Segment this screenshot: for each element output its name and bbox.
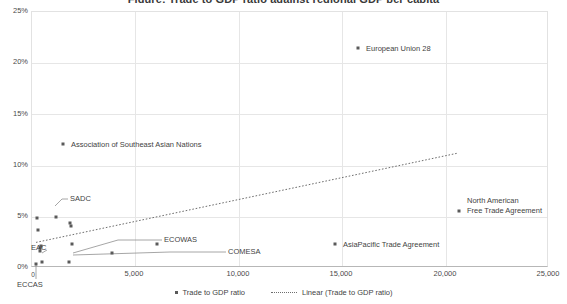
- gridline-x-5000: [135, 12, 136, 266]
- data-label-sadc-text: SADC: [70, 194, 91, 203]
- gridline-x-10000: [239, 12, 240, 266]
- data-label-apta: AsiaPacific Trade Agreement: [343, 240, 439, 249]
- data-point-apta: [334, 243, 337, 246]
- data-label-eac: EAC: [31, 243, 46, 252]
- data-point-ecowas: [71, 243, 74, 246]
- data-point-eccas: [35, 263, 38, 266]
- data-label-asean-text: Association of Southeast Asian Nations: [71, 140, 202, 149]
- data-point: [68, 261, 71, 264]
- x-axis-label-15000: 15,000: [330, 270, 353, 278]
- data-label-asean: Association of Southeast Asian Nations: [71, 140, 202, 149]
- data-label-sadc: SADC: [70, 194, 91, 203]
- x-axis-label-10000: 10,000: [227, 270, 250, 278]
- chart-root: Figure: Trade to GDP ratio against regio…: [0, 0, 567, 304]
- gridline-y-20: [32, 63, 547, 64]
- dotted-line-icon: [271, 292, 297, 293]
- data-point-nafta: [458, 210, 461, 213]
- chart-title: Figure: Trade to GDP ratio against regio…: [0, 0, 567, 3]
- y-axis-label-25: 25%: [0, 7, 28, 15]
- data-point-comesa: [111, 252, 114, 255]
- gridline-y-5: [32, 217, 547, 218]
- data-label-ecowas-text: ECOWAS: [164, 235, 197, 244]
- data-point-asean: [62, 143, 65, 146]
- chart-legend: Trade to GDP ratio Linear (Trade to GDP …: [0, 288, 567, 297]
- gridline-x-20000: [446, 12, 447, 266]
- legend-item-trendline[interactable]: Linear (Trade to GDP ratio): [271, 288, 392, 297]
- data-point: [70, 225, 73, 228]
- gridline-y-10: [32, 166, 547, 167]
- legend-item-series[interactable]: Trade to GDP ratio: [175, 288, 246, 297]
- data-label-comesa: COMESA: [228, 247, 261, 256]
- y-axis-label-0: 0%: [0, 263, 28, 271]
- data-point: [156, 243, 159, 246]
- data-label-eac-text: EAC: [31, 243, 46, 252]
- data-point-sadc: [55, 216, 58, 219]
- data-label-nafta-line2: Free Trade Agreement: [467, 206, 542, 215]
- y-axis-label-5: 5%: [0, 212, 28, 220]
- data-point: [37, 229, 40, 232]
- x-axis-label-5000: 5,000: [125, 270, 144, 278]
- gridline-y-15: [32, 114, 547, 115]
- legend-item-series-label: Trade to GDP ratio: [183, 288, 246, 297]
- data-label-ecowas: ECOWAS: [164, 235, 197, 244]
- data-point: [36, 217, 39, 220]
- data-label-nafta: North American Free Trade Agreement: [467, 196, 553, 215]
- data-label-nafta-line1: North American: [467, 196, 519, 205]
- data-point-eu28: [357, 47, 360, 50]
- square-marker-icon: [175, 291, 178, 294]
- data-label-eu28-text: European Union 28: [366, 44, 431, 53]
- y-axis-label-10: 10%: [0, 161, 28, 169]
- legend-item-trendline-label: Linear (Trade to GDP ratio): [302, 288, 392, 297]
- x-axis-label-20000: 20,000: [434, 270, 457, 278]
- x-axis-label-0: 0: [31, 271, 35, 279]
- data-label-eu28: European Union 28: [366, 44, 431, 53]
- gridline-x-15000: [342, 12, 343, 266]
- y-axis-label-20: 20%: [0, 58, 28, 66]
- data-label-apta-text: AsiaPacific Trade Agreement: [343, 240, 439, 249]
- plot-area: [31, 11, 548, 267]
- y-axis-label-15: 15%: [0, 110, 28, 118]
- data-point: [41, 261, 44, 264]
- data-label-comesa-text: COMESA: [228, 247, 261, 256]
- x-axis-label-25000: 25,000: [537, 270, 560, 278]
